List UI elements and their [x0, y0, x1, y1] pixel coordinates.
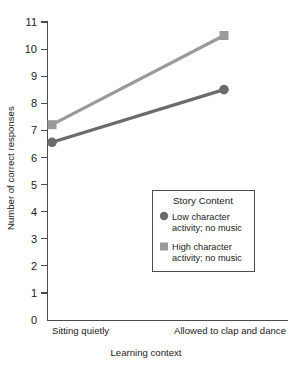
chart-canvas: 11 10 9 8 7 6 5 4 3 2 1 0 Number of corr…	[0, 0, 292, 366]
chart-legend: Story Content Low character activity; no…	[153, 191, 255, 272]
legend-entry-1-line1: High character	[172, 242, 232, 252]
y-tick-label-4: 4	[31, 206, 37, 218]
legend-entry-0-line1: Low character	[172, 212, 230, 222]
legend-entry-0-line2: activity; no music	[172, 223, 242, 233]
y-tick-label-9: 9	[31, 70, 37, 82]
y-tick-label-3: 3	[31, 233, 37, 245]
data-point-high-clapping	[220, 31, 229, 40]
x-category-label-sitting: Sitting quietly	[52, 325, 109, 336]
legend-marker-square-icon	[160, 243, 168, 251]
y-axis-title: Number of correct responses	[5, 106, 16, 230]
y-tick-label-7: 7	[31, 124, 37, 136]
y-tick-label-6: 6	[31, 152, 37, 164]
legend-marker-circle-icon	[160, 212, 168, 220]
y-tick-label-0: 0	[31, 314, 37, 326]
y-tick-label-5: 5	[31, 179, 37, 191]
x-category-label-clapping: Allowed to clap and dance	[174, 325, 286, 336]
legend-entry-1-line2: activity; no music	[172, 253, 242, 263]
data-point-low-sitting	[47, 138, 57, 148]
y-tick-label-11: 11	[26, 16, 37, 28]
legend-title: Story Content	[173, 195, 233, 206]
y-tick-label-10: 10	[25, 43, 37, 55]
data-point-high-sitting	[48, 120, 57, 129]
x-axis-title: Learning context	[111, 347, 182, 358]
y-tick-label-1: 1	[31, 287, 37, 299]
interaction-line-chart: 11 10 9 8 7 6 5 4 3 2 1 0 Number of corr…	[0, 0, 292, 366]
data-point-low-clapping	[219, 85, 229, 95]
chart-background	[0, 0, 292, 366]
y-tick-label-8: 8	[31, 97, 37, 109]
y-tick-label-2: 2	[31, 260, 37, 272]
